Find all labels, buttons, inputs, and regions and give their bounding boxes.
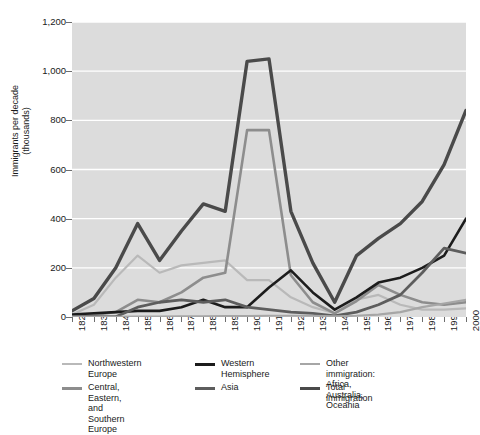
- x-tick-mark: [72, 317, 73, 322]
- x-tick-mark: [313, 317, 314, 322]
- x-tick-mark: [444, 317, 445, 322]
- x-tick-mark: [269, 317, 270, 322]
- y-tick-label: 1,000: [0, 65, 72, 75]
- y-tick-label: 200: [0, 262, 72, 272]
- y-tick-label: 400: [0, 213, 72, 223]
- legend-label: Central, Eastern, and Southern Europe: [88, 382, 125, 435]
- x-tick-mark: [160, 317, 161, 322]
- x-tick-mark: [225, 317, 226, 322]
- chart-legend: Northwestern EuropeCentral, Eastern, and…: [0, 358, 480, 418]
- x-tick-mark: [378, 317, 379, 322]
- x-tick-mark: [181, 317, 182, 322]
- x-tick-mark: [400, 317, 401, 322]
- x-tick-mark: [422, 317, 423, 322]
- x-tick-mark: [94, 317, 95, 322]
- legend-swatch: [62, 363, 82, 365]
- legend-label: Total immigration: [326, 382, 373, 403]
- legend-label: Western Hemisphere: [221, 358, 270, 379]
- y-tick-label: 800: [0, 114, 72, 124]
- legend-swatch: [62, 387, 82, 390]
- x-tick-mark: [291, 317, 292, 322]
- y-tick-label: 600: [0, 164, 72, 174]
- legend-label: Asia: [221, 382, 239, 393]
- x-tick-mark: [247, 317, 248, 322]
- plot-region: [72, 22, 466, 317]
- legend-swatch: [195, 387, 215, 390]
- series-line: [72, 59, 466, 311]
- y-tick-label: 0: [0, 311, 72, 321]
- legend-swatch: [300, 363, 320, 365]
- legend-swatch: [300, 387, 320, 390]
- x-tick-mark: [466, 317, 467, 322]
- y-tick-label: 1,200: [0, 16, 72, 26]
- chart-area: Immigrants per decade (thousands) 020040…: [0, 0, 480, 355]
- x-tick-mark: [203, 317, 204, 322]
- legend-label: Northwestern Europe: [88, 358, 142, 379]
- legend-swatch: [195, 363, 215, 366]
- x-tick-mark: [357, 317, 358, 322]
- x-tick-mark: [116, 317, 117, 322]
- x-tick-mark: [138, 317, 139, 322]
- x-tick-mark: [335, 317, 336, 322]
- series-line: [72, 256, 466, 315]
- x-tick-label: 2000: [470, 310, 480, 350]
- series-lines: [72, 22, 466, 317]
